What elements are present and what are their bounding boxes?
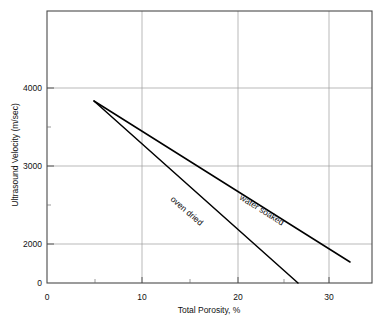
x-axis-title: Total Porosity, % [178, 305, 241, 315]
series-label-oven-dried: oven dried [169, 194, 206, 228]
y-tick-label-4000: 4000 [23, 83, 42, 93]
y-axis-ticks [47, 88, 54, 244]
x-tick-label-10: 10 [137, 292, 147, 302]
y-axis-title: Ultrasound Velocity (m/sec) [10, 103, 20, 207]
chart-canvas: 4000 3000 2000 0 0 10 20 30 Total Porosi… [0, 0, 386, 319]
series-label-water-soaked: water soaked [237, 192, 286, 228]
x-tick-label-30: 30 [324, 292, 334, 302]
y-tick-label-2000: 2000 [23, 239, 42, 249]
series-line-water-soaked [94, 101, 350, 262]
chart-figure: 4000 3000 2000 0 0 10 20 30 Total Porosi… [0, 0, 386, 319]
y-tick-label-3000: 3000 [23, 161, 42, 171]
y-tick-label-0: 0 [37, 278, 42, 288]
x-tick-label-0: 0 [45, 292, 50, 302]
series-line-oven-dried [94, 101, 298, 283]
plot-frame [47, 11, 372, 283]
data-series [94, 101, 350, 283]
gridlines [47, 11, 372, 283]
x-tick-label-20: 20 [233, 292, 243, 302]
